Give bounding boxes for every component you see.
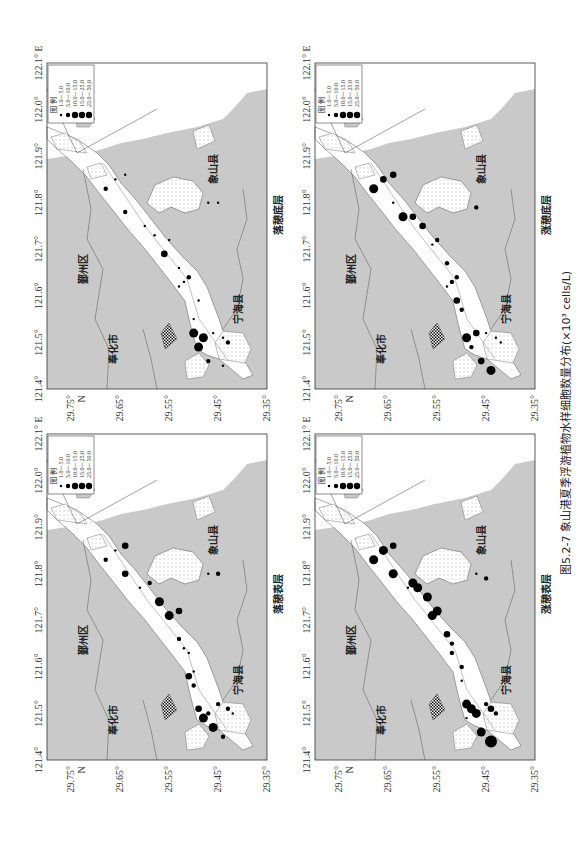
place-label: 奉化市 [375, 334, 387, 365]
sample-point [217, 202, 219, 204]
sample-point [478, 358, 485, 365]
sample-point [183, 647, 185, 649]
sample-point [369, 184, 378, 193]
latitude-unit-label: N [76, 766, 87, 773]
legend-class-label: 10.0－15.0 [72, 451, 78, 478]
legend-class-label: 25.0－50.0 [86, 80, 92, 107]
sample-point [161, 251, 168, 258]
panel-label-top-right: 涨憩底层 [540, 195, 552, 235]
legend-class-label: 1.0－5.0 [58, 457, 64, 478]
legend-title: 图 例 [317, 468, 326, 484]
sample-point [462, 333, 471, 342]
sample-point [485, 332, 487, 334]
legend-class-label: 5.0－10.0 [333, 454, 339, 478]
sample-point [460, 308, 464, 312]
longitude-tick-label: 121.5° [33, 700, 44, 727]
latitude-unit-label: N [344, 766, 355, 773]
sample-point [484, 576, 488, 580]
sample-point [168, 239, 170, 241]
longitude-tick-label: 121.7° [33, 236, 44, 262]
sample-point [445, 261, 449, 265]
longitude-tick-label: 121.7° [301, 607, 312, 634]
legend-class-label: 5.0－10.0 [65, 454, 71, 478]
sample-point [212, 332, 214, 334]
latitude-tick-label: 29.55° [163, 766, 174, 793]
sample-point [454, 297, 461, 304]
legend-symbol [60, 114, 62, 116]
sample-point [390, 172, 397, 179]
sample-point [450, 280, 454, 284]
longitude-tick-label: 122.0° [301, 96, 312, 123]
longitude-tick-label: 121.9° [33, 514, 44, 541]
sample-point [399, 212, 408, 221]
sample-point [144, 225, 146, 227]
legend-class-label: 25.0－50.0 [354, 80, 360, 107]
sample-point [189, 329, 198, 338]
sample-point [428, 611, 437, 620]
sample-point [455, 275, 459, 279]
place-label: 象山县 [475, 525, 487, 555]
sample-point [487, 366, 496, 375]
place-label: 鄞州区 [345, 254, 357, 284]
legend-class-label: 10.0－15.0 [340, 451, 346, 478]
legend-symbol [60, 485, 62, 487]
longitude-tick-label: 121.4° [301, 376, 312, 403]
sample-point [390, 543, 397, 550]
legend-class-label: 5.0－10.0 [333, 83, 339, 107]
longitude-tick-label: 121.8° [33, 560, 44, 587]
legend-symbol [86, 483, 92, 489]
legend-symbol [354, 112, 360, 118]
sample-point [477, 728, 486, 737]
longitude-tick-label: 121.6° [301, 283, 312, 310]
place-label: 宁海县 [232, 294, 244, 324]
sample-point [450, 641, 454, 645]
legend-symbol [79, 483, 85, 489]
sample-point [183, 281, 185, 283]
latitude-tick-label: 29.65° [382, 766, 393, 793]
legend-symbol [66, 113, 70, 117]
sample-point [188, 652, 190, 654]
longitude-tick-label: 122.1° E [301, 416, 312, 451]
legend-symbol [334, 484, 338, 488]
latitude-tick-label: 29.65° [382, 395, 393, 422]
sample-point [178, 285, 180, 287]
place-label: 奉化市 [107, 705, 119, 736]
panel-bottom-left: 图 例1.0－5.05.0－10.010.0－15.015.0－25.025.0… [47, 434, 267, 760]
longitude-tick-label: 122.0° [33, 96, 44, 123]
legend-bottom-right: 图 例1.0－5.05.0－10.010.0－15.015.0－25.025.0… [316, 436, 362, 494]
sample-point [187, 275, 191, 279]
legend-symbol [334, 113, 338, 117]
sample-point [488, 706, 495, 713]
longitude-tick-label: 121.9° [33, 143, 44, 170]
sample-point [410, 213, 417, 220]
legend-top-right: 图 例1.0－5.05.0－10.010.0－15.015.0－25.025.0… [316, 65, 362, 123]
sample-point [209, 723, 218, 732]
sample-point [199, 333, 208, 342]
latitude-tick-label: 29.55° [163, 395, 174, 422]
place-label: 宁海县 [500, 294, 512, 324]
sample-point [124, 174, 126, 176]
longitude-tick-label: 122.1° E [33, 416, 44, 451]
longitude-tick-label: 121.6° [33, 283, 44, 310]
sample-point [431, 243, 433, 245]
place-label: 奉化市 [107, 334, 119, 365]
sample-point [222, 337, 224, 339]
legend-title: 图 例 [49, 97, 58, 113]
latitude-unit-label: N [344, 395, 355, 402]
sample-point [186, 673, 193, 680]
legend-class-label: 15.0－25.0 [79, 451, 85, 478]
sample-point [474, 205, 478, 209]
sample-point [500, 341, 502, 343]
legend-symbol [72, 112, 78, 118]
sample-point [194, 343, 203, 352]
sample-point [461, 680, 463, 682]
legend-symbol [347, 112, 353, 118]
sample-point [207, 202, 209, 204]
latitude-unit-label: N [76, 395, 87, 402]
place-label: 象山县 [475, 154, 487, 184]
sample-point [392, 202, 394, 204]
sample-point [446, 285, 448, 287]
longitude-tick-label: 121.5° [301, 700, 312, 727]
place-label: 宁海县 [500, 665, 512, 695]
sample-point [435, 238, 439, 242]
